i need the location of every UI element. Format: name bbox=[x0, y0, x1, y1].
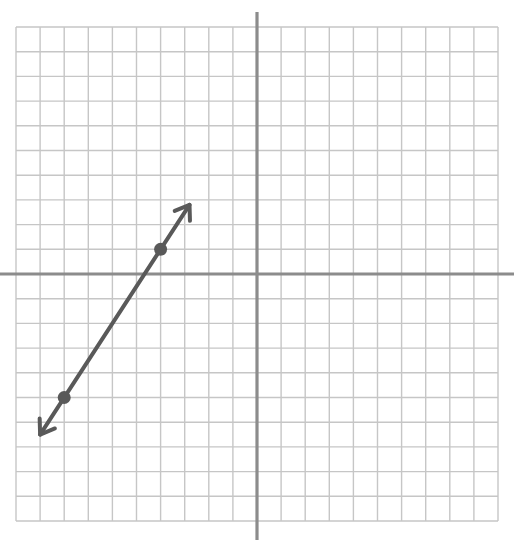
coordinate-plane bbox=[0, 0, 519, 544]
data-point bbox=[58, 391, 71, 404]
series bbox=[40, 205, 190, 435]
data-point bbox=[154, 243, 167, 256]
axes bbox=[0, 12, 514, 540]
